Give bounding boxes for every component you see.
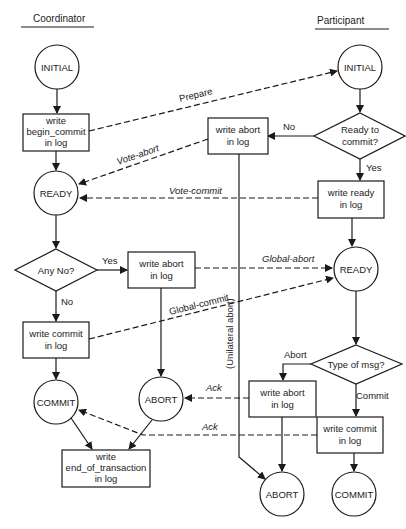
ack-label-1: Ack [205,382,223,393]
part-ready-to-commit-decision: Ready to commit? [314,113,405,159]
svg-text:commit?: commit? [342,136,378,147]
coord-begin-commit-box: write begin_commit in log [23,114,89,151]
svg-text:READY: READY [340,264,373,275]
part-abort-state: ABORT [260,472,304,516]
coord-initial-state: INITIAL [35,45,79,89]
global-abort-label: Global-abort [262,253,315,264]
svg-text:write commit: write commit [322,423,377,434]
yes-label: Yes [366,162,382,173]
coord-end-of-transaction-box: write end_of_transaction in log [62,450,150,487]
svg-text:write abort: write abort [259,387,305,398]
svg-text:ABORT: ABORT [266,489,299,500]
coord-ready-state: READY [34,171,78,215]
svg-text:write abort: write abort [215,124,261,135]
vote-commit-label: Vote-commit [169,185,222,196]
svg-text:write commit: write commit [28,328,83,339]
svg-text:write: write [45,115,66,126]
global-commit-label: Global-commit [168,291,230,317]
svg-text:in log: in log [227,136,250,147]
svg-text:Ready to: Ready to [341,124,379,135]
part-write-abort-box-1: write abort in log [208,118,268,154]
svg-text:ABORT: ABORT [145,394,178,405]
yes-label: Yes [102,255,118,266]
svg-text:INITIAL: INITIAL [41,62,73,73]
coord-any-no-decision: Any No? [15,249,97,291]
coord-write-commit-box: write commit in log [23,322,89,358]
two-phase-commit-diagram: Coordinator Participant INITIAL write be… [0,0,406,529]
svg-text:in log: in log [45,340,68,351]
prepare-label: Prepare [178,85,213,104]
svg-text:in log: in log [95,473,118,484]
svg-text:COMMIT: COMMIT [37,397,76,408]
participant-header: Participant [317,15,364,26]
unilateral-abort-label: (Unilateral abort) [224,298,235,369]
abort-label: Abort [284,349,307,360]
part-commit-state: COMMIT [332,472,376,516]
svg-text:write ready: write ready [327,187,375,198]
global-commit-arrow [89,278,333,339]
ack-label-2: Ack [201,421,219,432]
svg-text:in log: in log [45,137,68,148]
commit-label: Commit [356,390,389,401]
svg-text:end_of_transaction: end_of_transaction [66,462,147,473]
no-label: No [61,296,73,307]
svg-text:in log: in log [150,270,173,281]
part-write-ready-box: write ready in log [318,181,384,218]
part-type-of-msg-decision: Type of msg? [311,345,402,384]
coord-commit-state: COMMIT [34,380,78,424]
coordinator-header: Coordinator [33,13,86,24]
svg-text:in log: in log [271,399,294,410]
part-ready-state: READY [334,247,378,291]
no-label: No [283,121,295,132]
svg-text:in log: in log [340,199,363,210]
svg-text:write: write [95,451,116,462]
svg-text:write abort: write abort [138,258,184,269]
svg-text:Type of msg?: Type of msg? [327,359,384,370]
part-write-abort-box-2: write abort in log [249,381,316,417]
svg-text:INITIAL: INITIAL [344,62,376,73]
svg-text:begin_commit: begin_commit [26,126,85,137]
part-initial-state: INITIAL [338,45,382,89]
coord-abort-state: ABORT [139,377,183,421]
svg-text:Any No?: Any No? [38,265,74,276]
svg-text:READY: READY [40,188,73,199]
coord-write-abort-box: write abort in log [128,252,195,288]
part-write-commit-box: write commit in log [317,417,383,453]
svg-text:COMMIT: COMMIT [335,489,374,500]
svg-text:in log: in log [339,435,362,446]
